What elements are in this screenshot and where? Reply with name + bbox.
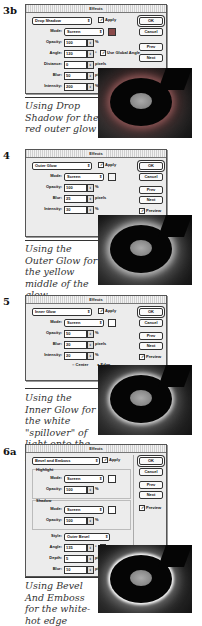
opacity-stepper[interactable]: ⇕ <box>87 184 94 192</box>
blur-input[interactable]: 50 <box>64 72 87 80</box>
opacity-input[interactable]: 100 <box>64 39 87 47</box>
ok-button[interactable]: OK <box>139 17 163 25</box>
style-select[interactable]: Outer Bevel⇕ <box>64 533 110 541</box>
blur-input[interactable]: 10 <box>64 566 87 574</box>
shadow-opacity-stepper[interactable]: ⇕ <box>87 517 94 525</box>
preview-checkbox[interactable]: ✓Preview <box>139 505 161 511</box>
mode-value: Screen <box>67 174 80 179</box>
pixels-unit: pixels <box>95 341 106 347</box>
preview-label: Preview <box>146 354 161 359</box>
apply-checkbox[interactable]: ✓Apply <box>102 457 120 463</box>
shadow-mode-select[interactable]: Screen⇕ <box>64 506 104 514</box>
next-button[interactable]: Next <box>139 491 163 499</box>
dialog-titlebar[interactable]: Effects <box>26 445 166 453</box>
shadow-opacity-input[interactable]: 100 <box>64 517 87 525</box>
intensity-input[interactable]: 30 <box>64 206 87 214</box>
intensity-input[interactable]: 200 <box>64 83 87 91</box>
ok-button[interactable]: OK <box>139 162 163 170</box>
intensity-stepper[interactable]: ⇕ <box>87 206 94 214</box>
highlight-group <box>32 469 131 499</box>
opacity-stepper[interactable]: ⇕ <box>87 330 94 338</box>
intensity-label: Intensity: <box>32 352 62 358</box>
depth-label: Depth: <box>32 555 62 561</box>
dialog-titlebar[interactable]: Effects <box>26 150 166 158</box>
dialog-title: Effects <box>86 296 105 303</box>
checkbox-icon: ✓ <box>139 354 145 360</box>
center-radio[interactable]: ○ Center <box>72 362 88 368</box>
select-arrow-icon: ⇕ <box>105 534 108 540</box>
shadow-color-swatch[interactable] <box>108 506 116 514</box>
effect-select[interactable]: Bevel and Emboss⇕ <box>32 457 100 465</box>
notch-graphic <box>158 68 192 90</box>
shadow-group <box>32 500 131 530</box>
opacity-stepper[interactable]: ⇕ <box>87 39 94 47</box>
preview-label: Preview <box>146 505 161 510</box>
preview-checkbox[interactable]: ✓Preview <box>139 354 161 360</box>
highlight-opacity-stepper[interactable]: ⇕ <box>87 486 94 494</box>
prev-button[interactable]: Prev <box>139 43 163 51</box>
angle-stepper[interactable]: ⇕ <box>87 544 94 552</box>
mode-value: Screen <box>67 320 80 325</box>
cancel-button[interactable]: Cancel <box>139 173 163 181</box>
depth-input[interactable]: 5 <box>64 555 87 563</box>
prev-button[interactable]: Prev <box>139 481 163 489</box>
angle-stepper[interactable]: ⇕ <box>87 50 94 58</box>
distance-stepper[interactable]: ⇕ <box>87 61 94 69</box>
mode-select[interactable]: Screen⇕ <box>64 319 104 327</box>
blur-stepper[interactable]: ⇕ <box>87 195 94 203</box>
depth-stepper[interactable]: ⇕ <box>87 555 94 563</box>
intensity-input[interactable]: 20 <box>64 352 87 360</box>
blur-stepper[interactable]: ⇕ <box>87 72 94 80</box>
dialog-titlebar[interactable]: Effects <box>26 5 166 13</box>
blur-input[interactable]: 25 <box>64 195 87 203</box>
opacity-input[interactable]: 50 <box>64 330 87 338</box>
intensity-stepper[interactable]: ⇕ <box>87 83 94 91</box>
caption: Using the Outer Glow for the yellow midd… <box>25 243 99 301</box>
angle-input[interactable]: 120 <box>64 50 87 58</box>
opacity-input[interactable]: 100 <box>64 184 87 192</box>
highlight-mode-label: Mode: <box>32 475 62 481</box>
divider <box>25 240 105 241</box>
angle-input[interactable]: 135 <box>64 544 87 552</box>
cancel-button[interactable]: Cancel <box>139 468 163 476</box>
use-global-angle-checkbox[interactable]: ✓Use Global Angle <box>100 50 140 56</box>
apply-checkbox[interactable]: ✓Apply <box>98 162 116 168</box>
ok-button[interactable]: OK <box>139 308 163 316</box>
blur-stepper[interactable]: ⇕ <box>87 341 94 349</box>
cancel-button[interactable]: Cancel <box>139 28 163 36</box>
effect-value: Outer Glow <box>35 163 57 168</box>
cancel-button[interactable]: Cancel <box>139 319 163 327</box>
blur-stepper[interactable]: ⇕ <box>87 566 94 574</box>
apply-checkbox[interactable]: ✓Apply <box>98 17 116 23</box>
color-swatch[interactable] <box>108 173 116 181</box>
next-button[interactable]: Next <box>139 196 163 204</box>
preview-checkbox[interactable]: ✓Preview <box>139 208 161 214</box>
highlight-mode-select[interactable]: Screen⇕ <box>64 475 104 483</box>
highlight-opacity-input[interactable]: 100 <box>64 486 87 494</box>
intensity-stepper[interactable]: ⇕ <box>87 352 94 360</box>
select-arrow-icon: ⇕ <box>99 476 102 482</box>
dialog-titlebar[interactable]: Effects <box>26 296 166 304</box>
blur-input[interactable]: 20 <box>64 341 87 349</box>
color-swatch[interactable] <box>108 319 116 327</box>
mode-select[interactable]: Screen⇕ <box>64 173 104 181</box>
distance-input[interactable]: 0 <box>64 61 87 69</box>
highlight-color-swatch[interactable] <box>108 475 116 483</box>
effect-select[interactable]: Drop Shadow⇕ <box>32 17 92 25</box>
ok-button[interactable]: OK <box>139 457 163 465</box>
notch-graphic <box>158 215 192 237</box>
radio-off-icon: ○ <box>72 362 74 367</box>
effect-select[interactable]: Inner Glow⇕ <box>32 308 92 316</box>
next-button[interactable]: Next <box>139 54 163 62</box>
color-swatch[interactable] <box>108 28 116 36</box>
shadow-mode-value: Screen <box>67 507 80 512</box>
glow-preview-image <box>98 365 192 435</box>
select-arrow-icon: ⇕ <box>99 174 102 180</box>
divider <box>25 97 105 98</box>
effect-select[interactable]: Outer Glow⇕ <box>32 162 92 170</box>
prev-button[interactable]: Prev <box>139 332 163 340</box>
next-button[interactable]: Next <box>139 342 163 350</box>
prev-button[interactable]: Prev <box>139 186 163 194</box>
mode-select[interactable]: Screen⇕ <box>64 28 104 36</box>
apply-checkbox[interactable]: ✓Apply <box>98 308 116 314</box>
